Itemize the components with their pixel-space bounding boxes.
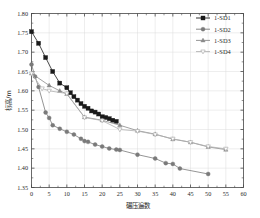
marker-circle: [206, 172, 210, 176]
marker-square: [114, 119, 118, 123]
chart-container: 1.351.401.451.501.551.601.651.701.751.80…: [0, 0, 260, 218]
marker-square: [30, 30, 34, 34]
x-tick-label: 15: [81, 190, 87, 197]
marker-circle: [30, 63, 34, 67]
x-tick-label: 50: [205, 190, 211, 197]
marker-circle: [164, 161, 168, 165]
y-tick-label: 1.80: [17, 10, 28, 17]
marker-circle: [79, 137, 83, 141]
y-tick-label: 1.35: [17, 184, 28, 191]
y-axis-title: 标高/m: [4, 90, 13, 110]
marker-circle: [201, 27, 205, 31]
x-tick-label: 10: [64, 190, 70, 197]
marker-circle: [47, 116, 51, 120]
y-tick-label: 1.70: [17, 48, 28, 55]
x-tick-label: 0: [30, 190, 33, 197]
marker-circle: [93, 143, 97, 147]
marker-circle: [136, 153, 140, 157]
marker-circle: [65, 130, 69, 134]
elevation-vs-passes-line-chart: 1.351.401.451.501.551.601.651.701.751.80…: [0, 0, 260, 218]
y-tick-label: 1.50: [17, 126, 28, 133]
marker-circle: [100, 145, 104, 149]
y-tick-label: 1.65: [17, 68, 28, 75]
y-tick-label: 1.60: [17, 87, 28, 94]
marker-circle: [44, 110, 48, 114]
legend-label: 1-SD2: [214, 26, 231, 33]
marker-circle: [86, 140, 90, 144]
x-tick-label: 35: [152, 190, 158, 197]
y-tick-label: 1.40: [17, 164, 28, 171]
marker-square: [65, 86, 69, 90]
marker-circle: [153, 157, 157, 161]
x-tick-label: 60: [240, 190, 246, 197]
marker-circle: [51, 123, 55, 127]
marker-square: [201, 16, 205, 20]
marker-square: [58, 81, 62, 85]
x-tick-label: 30: [134, 190, 140, 197]
x-tick-label: 45: [187, 190, 193, 197]
x-tick-label: 40: [170, 190, 176, 197]
marker-circle: [178, 167, 182, 171]
y-tick-label: 1.45: [17, 145, 28, 152]
marker-circle: [171, 162, 175, 166]
marker-circle: [118, 148, 122, 152]
x-tick-label: 25: [117, 190, 123, 197]
marker-circle: [83, 139, 87, 143]
marker-square: [37, 41, 41, 45]
y-tick-label: 1.55: [17, 106, 28, 113]
x-tick-label: 55: [223, 190, 229, 197]
x-tick-label: 5: [48, 190, 51, 197]
marker-circle: [72, 133, 76, 137]
y-tick-label: 1.75: [17, 29, 28, 36]
legend-label: 1-SD3: [214, 37, 231, 44]
marker-circle: [107, 146, 111, 150]
x-axis-title: 碾压遍数: [126, 201, 151, 210]
marker-circle: [58, 127, 62, 131]
marker-square: [44, 56, 48, 60]
legend-label: 1-SD1: [214, 14, 231, 21]
marker-square: [51, 70, 55, 74]
x-tick-label: 20: [99, 190, 105, 197]
legend-label: 1-SD4: [214, 48, 231, 55]
